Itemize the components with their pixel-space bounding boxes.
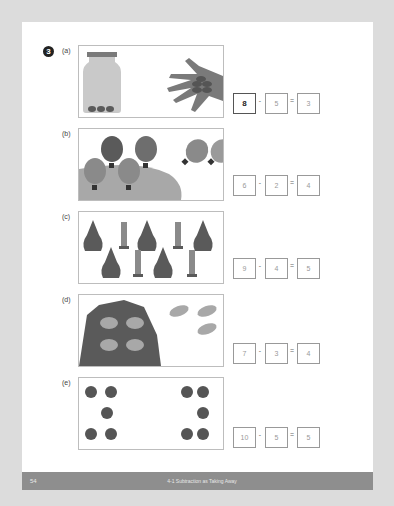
minuend-box[interactable]: 6 — [233, 175, 256, 196]
section-title: 4-1 Subtraction as Taking Away — [142, 478, 262, 484]
pears-illustration — [79, 212, 223, 283]
subtrahend-box[interactable]: 5 — [265, 427, 288, 448]
subtrahend-box[interactable]: 3 — [265, 343, 288, 364]
result-box[interactable]: 3 — [297, 93, 320, 114]
minuend-box[interactable]: 10 — [233, 427, 256, 448]
subtrahend-box[interactable]: 4 — [265, 258, 288, 279]
equals-sign: = — [288, 431, 296, 438]
picture-frame-d — [78, 294, 224, 367]
result-box[interactable]: 5 — [297, 258, 320, 279]
equals-sign: = — [288, 179, 296, 186]
minuend-box[interactable]: 8 — [233, 93, 256, 114]
problem-label-a: (a) — [62, 47, 71, 54]
equals-sign: = — [288, 97, 296, 104]
minus-sign: - — [256, 262, 264, 269]
frogs-illustration — [79, 295, 223, 366]
problem-label-c: (c) — [62, 213, 70, 220]
result-box[interactable]: 4 — [297, 175, 320, 196]
picture-frame-a — [78, 45, 224, 118]
minus-sign: - — [256, 347, 264, 354]
subtrahend-box[interactable]: 2 — [265, 175, 288, 196]
minuend-box[interactable]: 9 — [233, 258, 256, 279]
balloons-illustration — [79, 129, 223, 200]
problem-label-b: (b) — [62, 130, 71, 137]
picture-frame-c — [78, 211, 224, 284]
picture-frame-b — [78, 128, 224, 201]
problem-label-d: (d) — [62, 296, 71, 303]
minus-sign: - — [256, 431, 264, 438]
equals-sign: = — [288, 262, 296, 269]
page-number: 54 — [30, 478, 37, 484]
minus-sign: - — [256, 179, 264, 186]
result-box[interactable]: 4 — [297, 343, 320, 364]
question-number-badge: 3 — [43, 46, 54, 57]
problem-label-e: (e) — [62, 379, 71, 386]
page-footer: 54 4-1 Subtraction as Taking Away — [22, 472, 373, 490]
subtrahend-box[interactable]: 5 — [265, 93, 288, 114]
jar-and-hand-illustration — [79, 46, 223, 117]
snails-illustration — [79, 378, 223, 449]
result-box[interactable]: 5 — [297, 427, 320, 448]
equals-sign: = — [288, 347, 296, 354]
minus-sign: - — [256, 97, 264, 104]
minuend-box[interactable]: 7 — [233, 343, 256, 364]
picture-frame-e — [78, 377, 224, 450]
